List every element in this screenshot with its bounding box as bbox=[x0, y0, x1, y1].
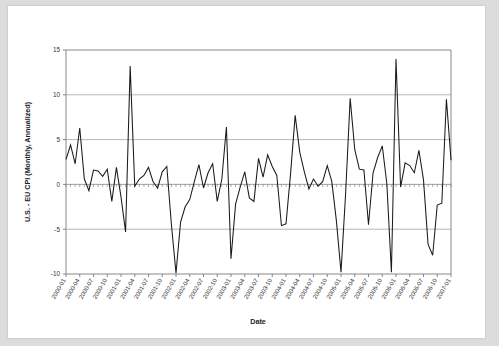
y-tick-label: 5 bbox=[56, 136, 60, 143]
x-tick-label: 2007-01 bbox=[435, 276, 453, 299]
cpi-line-chart: 151050-5-10 2000-012000-042000-072000-10… bbox=[8, 6, 485, 338]
y-tick-label: -10 bbox=[51, 270, 61, 277]
y-tick-label: -5 bbox=[54, 226, 60, 233]
x-tick-labels-group: 2000-012000-042000-072000-102001-012001-… bbox=[50, 274, 453, 300]
gridlines-group bbox=[63, 50, 451, 274]
screenshot-page: 151050-5-10 2000-012000-042000-072000-10… bbox=[0, 0, 499, 346]
chart-paper: 151050-5-10 2000-012000-042000-072000-10… bbox=[8, 6, 485, 338]
x-axis-title: Date bbox=[250, 317, 266, 326]
data-series-line bbox=[66, 59, 451, 273]
y-tick-label: 10 bbox=[53, 91, 61, 98]
y-axis-title: U.S. - EU CPI (Monthly, Annualized) bbox=[23, 101, 32, 222]
y-tick-labels-group: 151050-5-10 bbox=[51, 46, 61, 277]
y-tick-label: 15 bbox=[53, 46, 61, 53]
y-tick-label: 0 bbox=[56, 181, 60, 188]
